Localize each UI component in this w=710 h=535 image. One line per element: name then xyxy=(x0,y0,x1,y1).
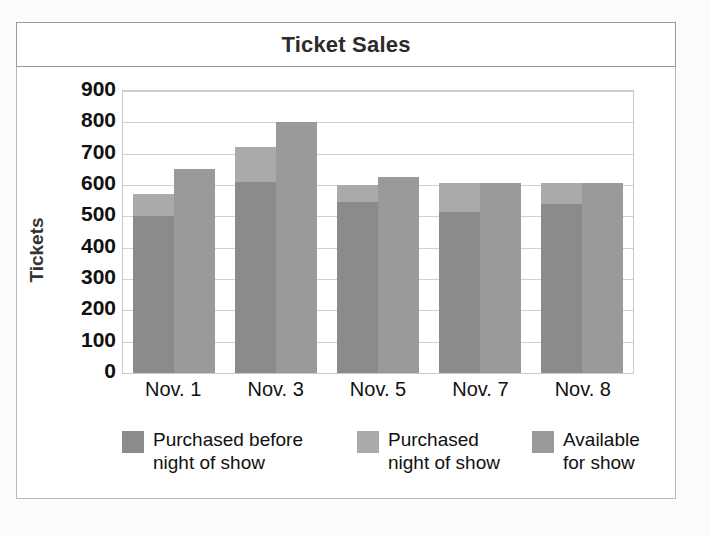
y-axis-tick: 200 xyxy=(81,297,116,318)
x-axis-tick-labels: Nov. 1Nov. 3Nov. 5Nov. 7Nov. 8 xyxy=(122,378,634,408)
y-axis-tick: 500 xyxy=(81,203,116,224)
stacked-bar[interactable] xyxy=(235,147,276,373)
legend-label: Purchased beforenight of show xyxy=(153,428,303,474)
bar-segment-purchased-night-of-show[interactable] xyxy=(235,147,276,181)
bar-group xyxy=(537,91,626,373)
x-axis-tick: Nov. 1 xyxy=(122,378,224,408)
y-axis-title: Tickets xyxy=(22,180,52,320)
bar-available-for-show[interactable] xyxy=(480,183,521,373)
y-axis-tick: 900 xyxy=(81,78,116,99)
plot-area xyxy=(122,90,634,374)
bar-segment-purchased-before-night-of-show[interactable] xyxy=(133,216,174,373)
bar-available-for-show[interactable] xyxy=(582,183,623,373)
x-axis-tick: Nov. 8 xyxy=(532,378,634,408)
y-axis-tick: 400 xyxy=(81,234,116,255)
legend-item[interactable]: Purchased beforenight of show xyxy=(122,428,357,490)
chart-legend: Purchased beforenight of showPurchasedni… xyxy=(122,428,652,490)
stacked-bar[interactable] xyxy=(337,185,378,373)
bar-segment-purchased-night-of-show[interactable] xyxy=(337,185,378,202)
legend-label-line1: Available xyxy=(563,429,640,450)
y-axis-title-text: Tickets xyxy=(26,217,48,282)
legend-item[interactable]: Purchasednight of show xyxy=(357,428,532,490)
y-axis-tick: 300 xyxy=(81,266,116,287)
x-axis-tick: Nov. 5 xyxy=(327,378,429,408)
legend-swatch-icon xyxy=(532,431,554,453)
legend-label-line1: Purchased xyxy=(388,429,479,450)
bar-group xyxy=(333,91,422,373)
bar-segment-purchased-before-night-of-show[interactable] xyxy=(541,204,582,373)
y-axis-tick: 600 xyxy=(81,172,116,193)
chart-page: Ticket Sales Tickets 9008007006005004003… xyxy=(0,0,710,535)
legend-item[interactable]: Availablefor show xyxy=(532,428,652,490)
bar-segment-purchased-night-of-show[interactable] xyxy=(439,183,480,211)
legend-label-line1: Purchased before xyxy=(153,429,303,450)
y-axis-tick: 0 xyxy=(104,360,116,381)
stacked-bar[interactable] xyxy=(541,183,582,373)
legend-label-line2: night of show xyxy=(388,451,500,474)
bar-segment-purchased-before-night-of-show[interactable] xyxy=(235,182,276,373)
stacked-bar[interactable] xyxy=(133,194,174,373)
bar-segment-purchased-before-night-of-show[interactable] xyxy=(439,212,480,373)
x-axis-tick: Nov. 3 xyxy=(224,378,326,408)
x-axis-tick: Nov. 7 xyxy=(429,378,531,408)
legend-label-line2: for show xyxy=(563,451,640,474)
chart-title-bar: Ticket Sales xyxy=(16,22,676,67)
bar-group xyxy=(129,91,218,373)
y-axis-tick: 100 xyxy=(81,328,116,349)
bar-groups xyxy=(123,91,633,373)
page-title: Ticket Sales xyxy=(281,32,410,58)
bar-available-for-show[interactable] xyxy=(276,122,317,373)
legend-label: Availablefor show xyxy=(563,428,640,474)
legend-label-line2: night of show xyxy=(153,451,303,474)
bar-segment-purchased-night-of-show[interactable] xyxy=(133,194,174,216)
bar-group xyxy=(231,91,320,373)
bar-group xyxy=(435,91,524,373)
y-axis-tick-labels: 9008007006005004003002001000 xyxy=(58,86,116,374)
y-axis-tick: 700 xyxy=(81,140,116,161)
bar-available-for-show[interactable] xyxy=(174,169,215,373)
y-axis-tick: 800 xyxy=(81,109,116,130)
legend-label: Purchasednight of show xyxy=(388,428,500,474)
bar-segment-purchased-night-of-show[interactable] xyxy=(541,183,582,203)
stacked-bar[interactable] xyxy=(439,183,480,373)
legend-swatch-icon xyxy=(122,431,144,453)
bar-segment-purchased-before-night-of-show[interactable] xyxy=(337,202,378,373)
legend-swatch-icon xyxy=(357,431,379,453)
bar-available-for-show[interactable] xyxy=(378,177,419,373)
